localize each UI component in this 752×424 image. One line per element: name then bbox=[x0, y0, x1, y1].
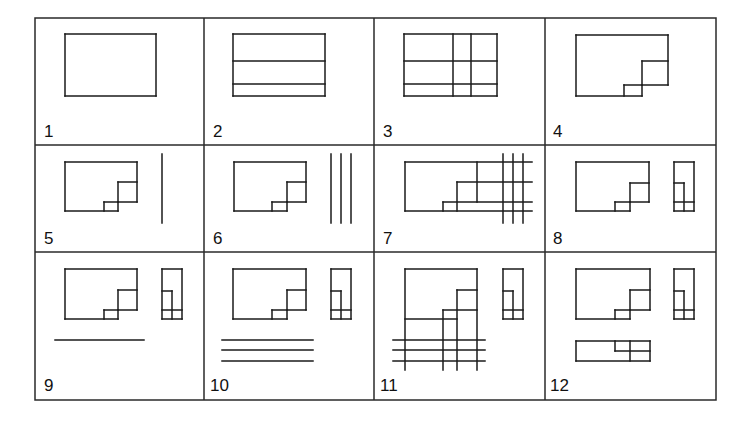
panel-number-label: 7 bbox=[383, 229, 392, 248]
panel-number-label: 1 bbox=[44, 122, 53, 141]
panel-number-label: 6 bbox=[213, 229, 222, 248]
panel-number-label: 10 bbox=[210, 376, 229, 395]
panels: 123456789101112 bbox=[44, 34, 694, 395]
panel-number-label: 9 bbox=[44, 376, 53, 395]
panel-3: 3 bbox=[383, 34, 497, 141]
panel-number-label: 2 bbox=[213, 122, 222, 141]
panel-7: 7 bbox=[383, 154, 532, 248]
panel-10: 10 bbox=[210, 269, 351, 395]
panel-11: 11 bbox=[380, 269, 523, 395]
panel-12: 12 bbox=[550, 269, 694, 395]
panel-1: 1 bbox=[44, 34, 156, 141]
panel-number-label: 4 bbox=[553, 122, 562, 141]
panel-number-label: 11 bbox=[380, 376, 398, 395]
panel-4: 4 bbox=[553, 35, 668, 141]
panel-5: 5 bbox=[44, 154, 162, 248]
diagram-canvas: 123456789101112 bbox=[0, 0, 752, 424]
panel-number-label: 5 bbox=[44, 229, 53, 248]
outer-border bbox=[35, 18, 716, 400]
panel-9: 9 bbox=[44, 269, 182, 395]
panel-2: 2 bbox=[213, 34, 325, 141]
panel-grid-frame bbox=[35, 18, 716, 400]
panel-8: 8 bbox=[553, 162, 694, 248]
panel-6: 6 bbox=[213, 154, 351, 248]
orthographic-projection-steps-diagram: 123456789101112 bbox=[0, 0, 752, 424]
panel-number-label: 3 bbox=[383, 122, 392, 141]
panel-number-label: 12 bbox=[550, 376, 569, 395]
panel-number-label: 8 bbox=[553, 229, 562, 248]
